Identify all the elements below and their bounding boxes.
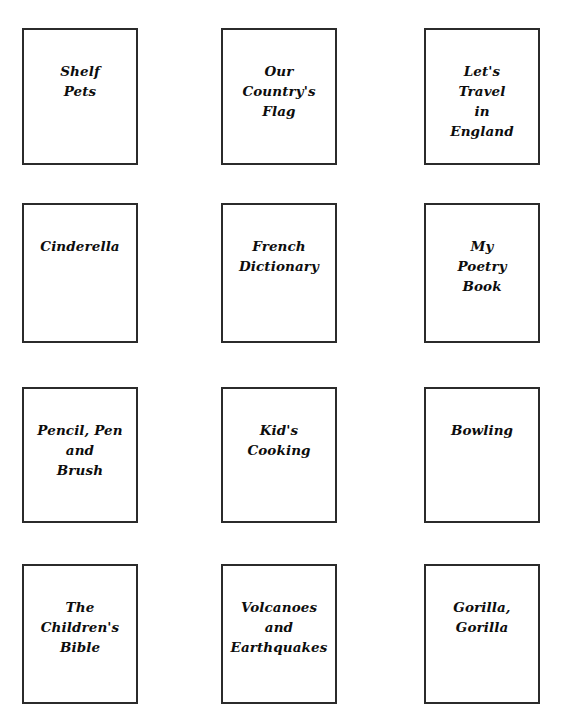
- book-cover-box[interactable]: Bowling: [424, 387, 540, 523]
- book-title-text: Pencil, Pen and Brush: [24, 420, 136, 480]
- book-title-text: Cinderella: [24, 236, 136, 256]
- book-cover-box[interactable]: Gorilla, Gorilla: [424, 564, 540, 704]
- book-title-text: Bowling: [426, 420, 538, 440]
- book-cover-box[interactable]: The Children's Bible: [22, 564, 138, 704]
- book-title-text: Our Country's Flag: [223, 61, 335, 121]
- book-cover-box[interactable]: Let's Travel in England: [424, 28, 540, 165]
- book-title-text: The Children's Bible: [24, 597, 136, 657]
- book-title-text: Volcanoes and Earthquakes: [223, 597, 335, 657]
- book-title-text: My Poetry Book: [426, 236, 538, 296]
- book-cover-box[interactable]: Volcanoes and Earthquakes: [221, 564, 337, 704]
- book-cover-grid: Shelf PetsOur Country's FlagLet's Travel…: [0, 0, 565, 726]
- book-cover-box[interactable]: French Dictionary: [221, 203, 337, 343]
- book-title-text: Shelf Pets: [24, 61, 136, 101]
- book-cover-box[interactable]: Our Country's Flag: [221, 28, 337, 165]
- book-cover-box[interactable]: Shelf Pets: [22, 28, 138, 165]
- book-cover-box[interactable]: My Poetry Book: [424, 203, 540, 343]
- book-title-text: Gorilla, Gorilla: [426, 597, 538, 637]
- book-cover-box[interactable]: Kid's Cooking: [221, 387, 337, 523]
- book-cover-box[interactable]: Pencil, Pen and Brush: [22, 387, 138, 523]
- book-title-text: French Dictionary: [223, 236, 335, 276]
- worksheet-page: Shelf PetsOur Country's FlagLet's Travel…: [0, 0, 565, 726]
- book-cover-box[interactable]: Cinderella: [22, 203, 138, 343]
- book-title-text: Let's Travel in England: [426, 61, 538, 141]
- book-title-text: Kid's Cooking: [223, 420, 335, 460]
